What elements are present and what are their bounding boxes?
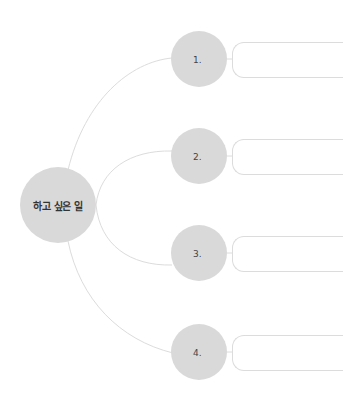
branch-number: 2. [193, 152, 202, 162]
branch-text-box-3[interactable] [232, 236, 343, 272]
branch-text-box-2[interactable] [232, 139, 343, 175]
branch-text-box-1[interactable] [232, 42, 343, 78]
branch-node-1[interactable]: 1. [171, 31, 227, 87]
branch-node-2[interactable]: 2. [171, 128, 227, 184]
central-topic-label: 하고 싶은 일 [33, 198, 83, 213]
branch-number: 1. [193, 55, 202, 65]
branch-number: 4. [193, 348, 202, 358]
central-topic-node[interactable]: 하고 싶은 일 [20, 167, 96, 243]
branch-node-4[interactable]: 4. [171, 324, 227, 380]
branch-node-3[interactable]: 3. [171, 225, 227, 281]
branch-number: 3. [193, 249, 202, 259]
branch-text-box-4[interactable] [232, 335, 343, 371]
